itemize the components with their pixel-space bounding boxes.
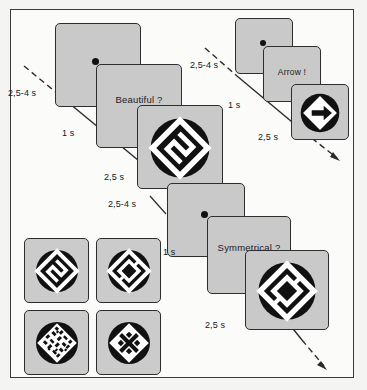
- fixation-dot-icon: [201, 211, 208, 218]
- seq1-question-duration: 1 s: [62, 128, 74, 138]
- stimulus-card-zigzag: [24, 238, 89, 303]
- stimulus-zigzag-icon: [32, 246, 82, 296]
- stimulus-cross-icon: [104, 318, 154, 368]
- seq3-arrowhead: [317, 361, 327, 370]
- seq2-question-label: Arrow !: [264, 67, 320, 77]
- seq3-label-leader: [150, 196, 166, 214]
- stimulus-example-grid: [24, 238, 162, 376]
- stimulus-card-random: [24, 310, 89, 375]
- seq3-fixation-duration: 2,5-4 s: [108, 199, 136, 209]
- stimulus-arrow-icon: [297, 90, 343, 136]
- seq1-question-label: Beautiful ?: [97, 94, 181, 105]
- stimulus-card-symmetric: [96, 238, 161, 303]
- figure-root: Beautiful ? 2,5-4 s 1 s 2,5 s Arrow !: [0, 0, 367, 390]
- fixation-dot-icon: [260, 40, 266, 46]
- seq2-stimulus-panel: [291, 84, 349, 140]
- seq2-fixation-duration: 2,5-4 s: [190, 60, 218, 70]
- seq3-stimulus-duration: 2,5 s: [205, 320, 225, 330]
- seq2-stimulus-duration: 2,5 s: [258, 132, 278, 142]
- seq1-fixation-duration: 2,5-4 s: [8, 88, 36, 98]
- seq2-question-duration: 1 s: [228, 100, 240, 110]
- seq1-stimulus-duration: 2,5 s: [104, 172, 124, 182]
- stimulus-symmetric-icon: [104, 246, 154, 296]
- stimulus-card-cross: [96, 310, 161, 375]
- stimulus-zigzag-icon: [145, 113, 215, 183]
- seq3-question-duration: 1 s: [163, 247, 175, 257]
- stimulus-random-icon: [32, 318, 82, 368]
- seq3-stimulus-panel: [245, 250, 329, 330]
- stimulus-symmetric-icon: [253, 257, 321, 325]
- seq1-stimulus-panel: [137, 105, 223, 189]
